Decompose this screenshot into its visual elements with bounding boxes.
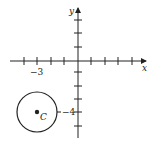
y-axis-label: y bbox=[68, 6, 75, 16]
x-tick-label-neg3: −3 bbox=[30, 67, 44, 77]
y-tick-label-neg4: −4 bbox=[62, 107, 76, 117]
center-label: C bbox=[40, 112, 47, 122]
center-point bbox=[35, 110, 39, 114]
x-axis-label: x bbox=[142, 63, 147, 73]
coordinate-diagram: y x −3 −4 C bbox=[0, 0, 155, 145]
